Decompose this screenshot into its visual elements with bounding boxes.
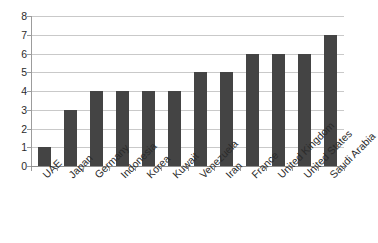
x-tick-mark [109,167,110,171]
bar[interactable] [272,54,285,167]
x-tick-mark [240,167,241,171]
x-tick-mark [188,167,189,171]
x-tick-mark [31,167,32,171]
x-tick-mark [135,167,136,171]
x-tick-mark [214,167,215,171]
x-tick-mark [83,167,84,171]
bar[interactable] [168,91,181,166]
x-tick-mark [292,167,293,171]
y-axis-tick-marks [0,16,31,166]
x-tick-mark [266,167,267,171]
x-tick-mark [57,167,58,171]
bar[interactable] [90,91,103,166]
bar[interactable] [64,110,77,166]
bar[interactable] [246,54,259,167]
x-tick-mark [344,167,345,171]
x-tick-mark [318,167,319,171]
x-tick-mark [161,167,162,171]
bars-layer [31,16,344,166]
